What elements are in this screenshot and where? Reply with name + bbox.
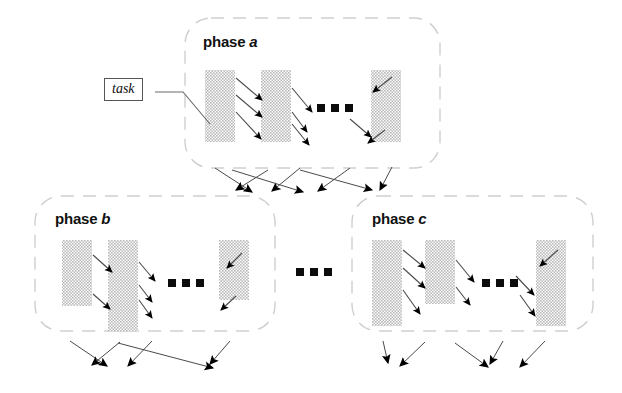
phase-c-bar-2 <box>425 240 455 304</box>
task-label-text: task <box>112 81 135 96</box>
phase-diagram: task phase a phase b phase c <box>0 0 622 393</box>
phase-c-ellipsis <box>482 279 518 287</box>
phase-b-label-prefix: phase <box>55 210 97 227</box>
diagram-canvas <box>0 0 622 393</box>
phase-b-label: phase b <box>55 210 110 227</box>
connector-below-phase-c <box>383 341 545 367</box>
phase-c-bar-3 <box>536 240 566 326</box>
connector-below-phase-a <box>215 167 392 192</box>
phase-a-bar-1 <box>205 70 235 142</box>
phase-c-label-letter: c <box>418 210 426 227</box>
phase-a-ellipsis <box>317 104 353 112</box>
phase-a-label-letter: a <box>249 33 257 50</box>
phase-b-label-letter: b <box>101 210 110 227</box>
phase-b-bar-3 <box>219 240 249 300</box>
phase-a-bar-2 <box>261 70 291 142</box>
phase-b-bar-2 <box>108 240 138 332</box>
phase-a-label: phase a <box>203 33 257 50</box>
connector-below-phase-b <box>70 341 230 368</box>
phase-c-label-prefix: phase <box>372 210 414 227</box>
task-label-box: task <box>104 78 143 101</box>
phase-b-bar-1 <box>62 240 92 306</box>
phase-a-bar-3 <box>371 70 401 142</box>
inter-phase-ellipsis <box>296 268 332 276</box>
task-leader-line <box>155 92 210 124</box>
phase-a-label-prefix: phase <box>203 33 245 50</box>
phase-c-bar-1 <box>372 240 402 326</box>
phase-c-label: phase c <box>372 210 426 227</box>
phase-b-ellipsis <box>168 279 204 287</box>
